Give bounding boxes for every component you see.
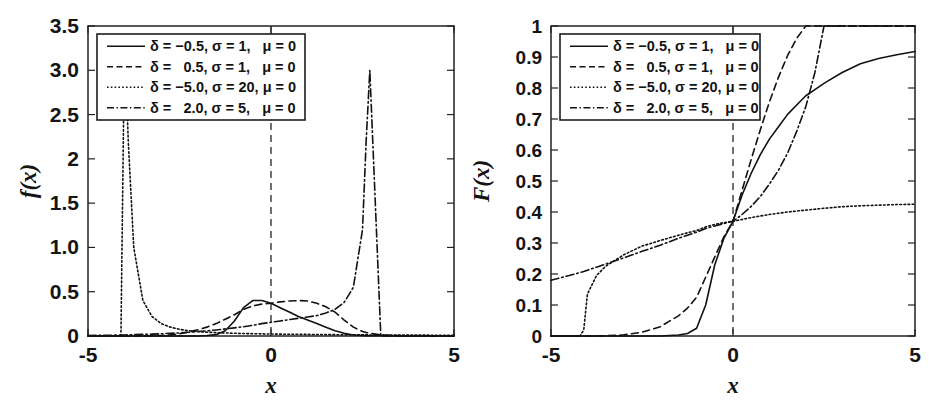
y-tick-label: 0.2 xyxy=(516,264,542,285)
y-tick-label: 0 xyxy=(67,324,79,347)
legend-label-2: δ = −5.0, σ = 20, μ = 0 xyxy=(150,79,296,95)
figure-container: 00.51.01.522.53.03.5-505xf(x)δ = −0.5, σ… xyxy=(0,0,932,408)
y-tick-label: 0 xyxy=(531,326,542,347)
legend: δ = −0.5, σ = 1, μ = 0δ = 0.5, σ = 1, μ … xyxy=(560,34,760,120)
y-tick-label: 0.4 xyxy=(516,202,543,223)
y-tick-label: 2 xyxy=(67,147,79,170)
x-tick-label: 0 xyxy=(727,343,739,366)
x-tick-label: 5 xyxy=(909,343,921,366)
legend-label-1: δ = 0.5, σ = 1, μ = 0 xyxy=(613,59,759,75)
cdf-panel: 00.10.20.30.40.50.60.70.80.91-505xF(x)δ … xyxy=(466,0,932,408)
legend-label-1: δ = 0.5, σ = 1, μ = 0 xyxy=(150,59,296,75)
y-tick-label: 0.1 xyxy=(516,295,543,316)
y-tick-label: 0.5 xyxy=(50,280,80,303)
pdf-panel: 00.51.01.522.53.03.5-505xf(x)δ = −0.5, σ… xyxy=(0,0,466,408)
y-tick-label: 0.6 xyxy=(516,140,542,161)
y-tick-label: 0.5 xyxy=(516,171,543,192)
y-tick-label: 0.3 xyxy=(516,233,542,254)
cdf-plot-svg: 00.10.20.30.40.50.60.70.80.91-505xF(x)δ … xyxy=(466,0,932,408)
x-axis-title: x xyxy=(264,373,277,398)
x-axis-title: x xyxy=(726,373,739,398)
y-axis-title: F(x) xyxy=(469,160,494,203)
legend-label-2: δ = −5.0, σ = 20, μ = 0 xyxy=(613,79,759,95)
y-axis-title: f(x) xyxy=(16,164,41,198)
y-tick-label: 1.5 xyxy=(50,191,80,214)
x-tick-label: 5 xyxy=(448,343,460,366)
y-tick-label: 0.9 xyxy=(516,47,542,68)
legend-label-3: δ = 2.0, σ = 5, μ = 0 xyxy=(150,100,296,116)
pdf-plot-svg: 00.51.01.522.53.03.5-505xf(x)δ = −0.5, σ… xyxy=(0,0,466,408)
legend-label-0: δ = −0.5, σ = 1, μ = 0 xyxy=(150,38,296,54)
x-tick-label: -5 xyxy=(542,343,561,366)
y-tick-label: 2.5 xyxy=(50,103,80,126)
legend-label-3: δ = 2.0, σ = 5, μ = 0 xyxy=(613,100,759,116)
y-tick-label: 1 xyxy=(531,16,542,37)
x-tick-label: -5 xyxy=(79,343,98,366)
y-tick-label: 3.5 xyxy=(50,14,80,37)
legend-label-0: δ = −0.5, σ = 1, μ = 0 xyxy=(613,38,759,54)
y-tick-label: 1.0 xyxy=(50,235,79,258)
y-tick-label: 0.7 xyxy=(516,109,542,130)
y-tick-label: 3.0 xyxy=(50,58,79,81)
y-tick-label: 0.8 xyxy=(516,78,542,99)
legend: δ = −0.5, σ = 1, μ = 0δ = 0.5, σ = 1, μ … xyxy=(97,34,305,120)
x-tick-label: 0 xyxy=(265,343,277,366)
